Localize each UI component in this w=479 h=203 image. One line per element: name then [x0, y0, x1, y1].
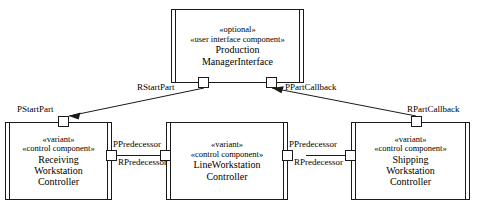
port-rpredecessor-right[interactable] [345, 150, 356, 161]
uml-component-diagram: «optional» «user interface component» Pr… [0, 0, 479, 203]
port-label-ppartcallback: PPartCallback [285, 82, 337, 92]
port-label-rpredecessor-right: RPredecessor [294, 157, 343, 167]
port-ppredecessor-right[interactable] [282, 150, 293, 161]
port-label-rpartcallback: RPartCallback [407, 104, 460, 114]
port-rpartcallback[interactable] [411, 116, 422, 127]
port-ppredecessor-left[interactable] [106, 150, 117, 161]
connector-layer [0, 0, 479, 203]
port-label-ppredecessor-right: PPredecessor [289, 139, 337, 149]
port-rstartpart[interactable] [198, 77, 209, 88]
port-pstartpart[interactable] [58, 116, 69, 127]
port-label-pstartpart: PStartPart [17, 104, 54, 114]
port-label-ppredecessor-left: PPredecessor [113, 139, 161, 149]
port-label-rpredecessor-left: RPredecessor [118, 157, 167, 167]
port-label-rstartpart: RStartPart [137, 82, 175, 92]
connector-startpart [69, 88, 204, 120]
port-ppartcallback[interactable] [266, 77, 277, 88]
